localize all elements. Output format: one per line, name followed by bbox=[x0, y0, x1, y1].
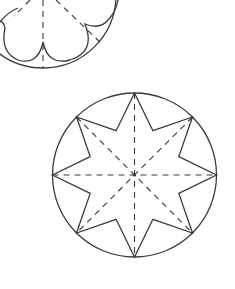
center-point bbox=[133, 173, 136, 176]
flower-petal-left-edge bbox=[0, 8, 18, 22]
flower-outer-circle bbox=[0, 0, 116, 68]
fold-line-diagonal-right bbox=[56, 0, 102, 44]
flower-petals bbox=[0, 0, 118, 61]
diagram-canvas bbox=[0, 0, 235, 289]
eight-pointed-star-figure bbox=[53, 93, 217, 257]
scalloped-flower-figure bbox=[0, 0, 118, 68]
